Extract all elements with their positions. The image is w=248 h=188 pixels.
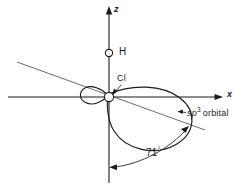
angle-value: 71 [146,147,158,158]
angle-arc-arrowhead-z [109,164,117,170]
sp3-orbital-minor-lobe [80,87,108,104]
sp3-label-sp: sp [187,108,197,118]
cl-atom-circle [104,92,113,101]
sp3-label-superscript: 3 [197,106,201,113]
h-atom-circle [105,49,112,56]
z-axis-label: z [114,5,119,14]
cl-atom-label: Cl [117,74,126,83]
z-axis-arrowhead [106,6,112,15]
angle-arc-arrowhead-orbital [181,126,189,133]
angle-label-71-degrees: 71° [146,146,161,158]
sp3-label-word: orbital [203,108,229,118]
sp3-orbital-label: sp3orbital [187,107,229,118]
h-atom-label: H [119,47,126,57]
orbital-diagram-canvas [0,0,248,188]
orbital-diagram-figure: z x H Cl 71° sp3orbital [0,0,248,188]
degree-symbol: ° [158,146,161,153]
x-axis-arrowhead [215,94,224,100]
x-axis-label: x [227,90,232,99]
sp3-label-leader-arrowhead [178,110,184,114]
